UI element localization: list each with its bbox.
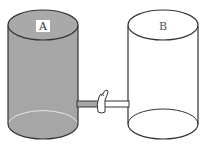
label-b: B: [159, 20, 167, 33]
label-a: A: [38, 20, 48, 33]
connected-containers-diagram: A B: [0, 0, 200, 152]
